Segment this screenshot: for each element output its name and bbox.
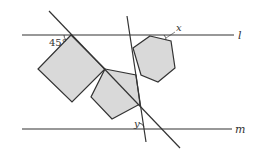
line-label-m: m [235, 123, 245, 136]
line-label-l: l [238, 29, 242, 42]
geometry-diagram: 45° x y l m [0, 0, 256, 152]
diagram-svg: 45° x y l m [0, 0, 256, 152]
angle-label-x: x [176, 22, 182, 33]
angle-label-y: y [133, 118, 140, 129]
hexagon [133, 36, 175, 82]
pentagon [91, 69, 140, 119]
angle-label-45: 45° [49, 37, 67, 48]
